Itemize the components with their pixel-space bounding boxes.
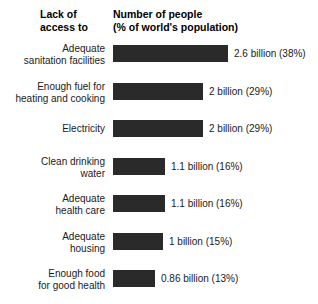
row-category-label: Adequate sanitation facilities [0, 43, 105, 66]
row-category-label: Clean drinking water [0, 156, 105, 179]
bar-value-label: 1.1 billion (16%) [171, 161, 243, 173]
chart-row: Clean drinking water1.1 billion (16%) [0, 158, 318, 176]
row-category-label: Enough fuel for heating and cooking [0, 81, 105, 104]
row-category-label: Adequate housing [0, 231, 105, 254]
bar-value-label: 2 billion (29%) [209, 123, 272, 135]
row-category-label: Adequate health care [0, 193, 105, 216]
chart-row: Adequate health care1.1 billion (16%) [0, 195, 318, 213]
bar [113, 233, 163, 250]
row-category-label: Enough food for good health [0, 268, 105, 291]
chart-row: Enough food for good health0.86 billion … [0, 270, 318, 288]
chart-row: Enough fuel for heating and cooking2 bil… [0, 83, 318, 101]
bar [113, 120, 203, 137]
bar [113, 83, 203, 100]
bar [113, 45, 228, 62]
bar-value-label: 2.6 billion (38%) [234, 48, 306, 60]
bar-chart: Lack of access to Number of people (% of… [0, 0, 318, 304]
bar-value-label: 0.86 billion (13%) [161, 273, 238, 285]
column-header-value: Number of people (% of world's populatio… [113, 8, 313, 34]
chart-row: Adequate housing1 billion (15%) [0, 233, 318, 251]
bar [113, 158, 165, 175]
bar-value-label: 2 billion (29%) [209, 86, 272, 98]
row-category-label: Electricity [0, 123, 105, 135]
bar [113, 270, 155, 287]
chart-row: Adequate sanitation facilities2.6 billio… [0, 45, 318, 63]
bar-value-label: 1 billion (15%) [169, 236, 232, 248]
chart-row: Electricity2 billion (29%) [0, 120, 318, 138]
column-header-category: Lack of access to [40, 8, 110, 34]
bar-value-label: 1.1 billion (16%) [171, 198, 243, 210]
bar [113, 195, 165, 212]
